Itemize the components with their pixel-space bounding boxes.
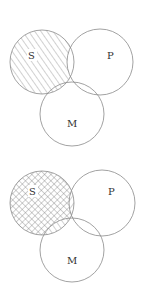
label-s: S <box>29 186 36 197</box>
circle-p <box>67 29 133 95</box>
circle-m <box>40 82 104 146</box>
circle-p <box>69 170 135 236</box>
venn-diagram-top: S P M <box>0 0 141 142</box>
label-p: P <box>108 186 115 197</box>
label-m: M <box>67 255 77 266</box>
label-m: M <box>67 118 77 129</box>
venn-svg-top: S P M <box>0 0 141 150</box>
label-p: P <box>107 50 114 61</box>
venn-diagram-bottom: S P M <box>0 142 141 284</box>
venn-svg-bottom: S P M <box>0 142 141 284</box>
circle-m <box>40 218 104 282</box>
label-s: S <box>28 50 35 61</box>
